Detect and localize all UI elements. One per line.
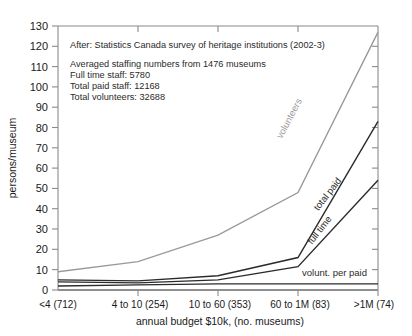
- x-tick-4: >1M (74): [354, 299, 394, 310]
- y-tick-50: 50: [36, 182, 48, 194]
- x-tick-labels: <4 (712) 4 to 10 (254) 10 to 60 (353) 60…: [39, 299, 394, 310]
- x-tick-1: 4 to 10 (254): [112, 299, 169, 310]
- series-label-volunteers: volunteers: [274, 96, 304, 140]
- series-line-volunt-per-paid: [58, 284, 378, 286]
- annotation-source: After: Statistics Canada survey of herit…: [70, 40, 325, 50]
- x-axis-title: annual budget $10k, (no. museums): [136, 315, 304, 327]
- annotation-summary-0: Averaged staffing numbers from 1476 muse…: [70, 59, 266, 69]
- annotation-summary-3: Total volunteers: 32688: [70, 92, 165, 102]
- chart-figure: 130 120 110 100 90 80 70 60 50 40 30 20 …: [0, 0, 412, 336]
- y-tick-40: 40: [36, 203, 48, 215]
- y-tick-30: 30: [36, 223, 48, 235]
- y-tick-60: 60: [36, 162, 48, 174]
- y-tick-80: 80: [36, 122, 48, 134]
- x-tick-2: 10 to 60 (353): [189, 299, 251, 310]
- y-axis-title: persons/museum: [6, 117, 18, 198]
- y-tick-100: 100: [30, 81, 48, 93]
- line-chart: 130 120 110 100 90 80 70 60 50 40 30 20 …: [0, 0, 412, 336]
- y-tick-20: 20: [36, 243, 48, 255]
- annotation-summary-1: Full time staff: 5780: [70, 70, 150, 80]
- y-axis-ticks: [52, 26, 58, 290]
- series-inline-labels: volunteers total paid full time volunt. …: [274, 96, 367, 278]
- x-tick-0: <4 (712): [39, 299, 77, 310]
- y-axis-right-ticks: [372, 46, 378, 269]
- y-tick-labels: 130 120 110 100 90 80 70 60 50 40 30 20 …: [30, 20, 48, 296]
- annotation-block: After: Statistics Canada survey of herit…: [70, 40, 325, 102]
- y-tick-70: 70: [36, 142, 48, 154]
- y-tick-10: 10: [36, 264, 48, 276]
- y-tick-90: 90: [36, 101, 48, 113]
- y-tick-130: 130: [30, 20, 48, 32]
- series-label-volunt-per-paid: volunt. per paid: [302, 267, 367, 278]
- series-line-total-paid: [58, 121, 378, 280]
- y-tick-110: 110: [30, 61, 48, 73]
- annotation-summary-2: Total paid staff: 12168: [70, 81, 160, 91]
- y-tick-120: 120: [30, 40, 48, 52]
- series-label-full-time: full time: [305, 214, 334, 247]
- y-tick-0: 0: [42, 284, 48, 296]
- x-tick-3: 60 to 1M (83): [270, 299, 329, 310]
